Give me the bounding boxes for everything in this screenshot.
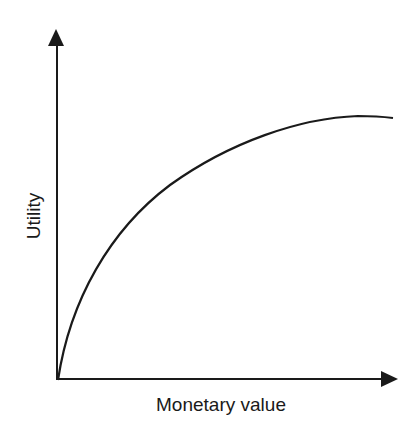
x-axis-arrow-icon (381, 371, 398, 387)
y-axis-label: Utility (23, 192, 44, 239)
utility-curve (58, 116, 393, 380)
utility-diagram: Monetary value Utility (0, 0, 419, 435)
x-axis-label: Monetary value (156, 394, 286, 415)
y-axis-arrow-icon (48, 29, 64, 46)
